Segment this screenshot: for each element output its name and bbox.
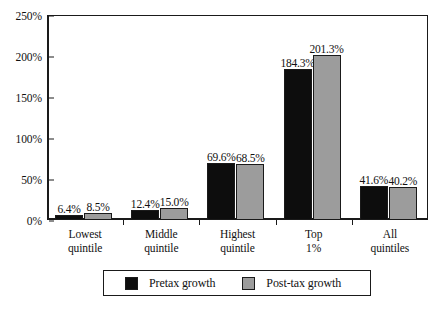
x-axis-category-line: 1% (305, 241, 322, 255)
x-axis-category-line: quintiles (371, 241, 410, 255)
bar-value-label: 41.6% (359, 174, 388, 186)
bar-group: 12.4%15.0% (123, 15, 199, 220)
bar-post-tax: 15.0% (160, 208, 188, 220)
bar-value-label: 69.6% (207, 151, 236, 163)
gray-square-swatch (242, 277, 255, 290)
bars-layer: 6.4%8.5%12.4%15.0%69.6%68.5%184.3%201.3%… (47, 15, 428, 220)
y-axis-tick-label: 100% (16, 133, 49, 145)
bar-post-tax: 8.5% (84, 213, 112, 220)
bar-value-label: 40.2% (388, 175, 417, 187)
x-axis-tick-mark (123, 219, 124, 225)
x-axis-category-line: Middle (144, 227, 178, 241)
bar-chart: 0%50%100%150%200%250% 6.4%8.5%12.4%15.0%… (0, 0, 443, 311)
x-axis-tick-mark (199, 219, 200, 225)
black-square-swatch (125, 277, 138, 290)
bar-value-label: 201.3% (309, 43, 343, 55)
x-axis-category-line: All (371, 227, 410, 241)
bar-post-tax: 68.5% (236, 164, 264, 220)
bar-pretax: 184.3% (284, 69, 312, 220)
x-axis-tick-mark (352, 219, 353, 225)
y-axis-tick-label: 250% (16, 10, 49, 22)
x-axis-category-label: Top1% (305, 227, 322, 255)
y-axis-tick-label: 0% (27, 215, 49, 227)
y-axis-tick-mark (49, 221, 54, 222)
chart-legend: Pretax growth Post-tax growth (103, 270, 371, 296)
bar-group: 6.4%8.5% (47, 15, 123, 220)
x-axis-category-line: quintile (220, 241, 255, 255)
bar-value-label: 6.4% (57, 203, 80, 215)
bar-value-label: 8.5% (86, 201, 109, 213)
bar-group: 41.6%40.2% (352, 15, 428, 220)
x-axis-category-line: Top (305, 227, 322, 241)
legend-item-post-tax-growth: Post-tax growth (242, 271, 341, 295)
y-axis-tick-label: 50% (21, 174, 49, 186)
legend-item-pretax-growth: Pretax growth (125, 271, 215, 295)
x-axis-category-line: quintile (68, 241, 102, 255)
x-axis-category-label: Highestquintile (220, 227, 255, 255)
y-axis-tick-label: 200% (16, 51, 49, 63)
bar-pretax: 41.6% (360, 186, 388, 220)
x-axis-category-label: Lowestquintile (68, 227, 102, 255)
x-axis-category-line: Lowest (68, 227, 102, 241)
x-axis-category-label: Allquintiles (371, 227, 410, 255)
bar-value-label: 12.4% (131, 198, 160, 210)
bar-value-label: 15.0% (160, 196, 189, 208)
bar-value-label: 68.5% (236, 152, 265, 164)
legend-label-post-tax-growth: Post-tax growth (266, 276, 341, 291)
bar-post-tax: 201.3% (313, 55, 341, 220)
bar-value-label: 184.3% (280, 57, 314, 69)
x-axis-category-line: Highest (220, 227, 255, 241)
x-axis-category-label: Middlequintile (144, 227, 178, 255)
x-axis-category-line: quintile (144, 241, 178, 255)
legend-label-pretax-growth: Pretax growth (149, 276, 215, 291)
bar-pretax: 12.4% (131, 210, 159, 220)
bar-post-tax: 40.2% (389, 187, 417, 220)
bar-group: 184.3%201.3% (276, 15, 352, 220)
x-axis-tick-mark (276, 219, 277, 225)
bar-group: 69.6%68.5% (199, 15, 275, 220)
y-axis-tick-label: 150% (16, 92, 49, 104)
bar-pretax: 69.6% (207, 163, 235, 220)
bar-pretax: 6.4% (55, 215, 83, 220)
